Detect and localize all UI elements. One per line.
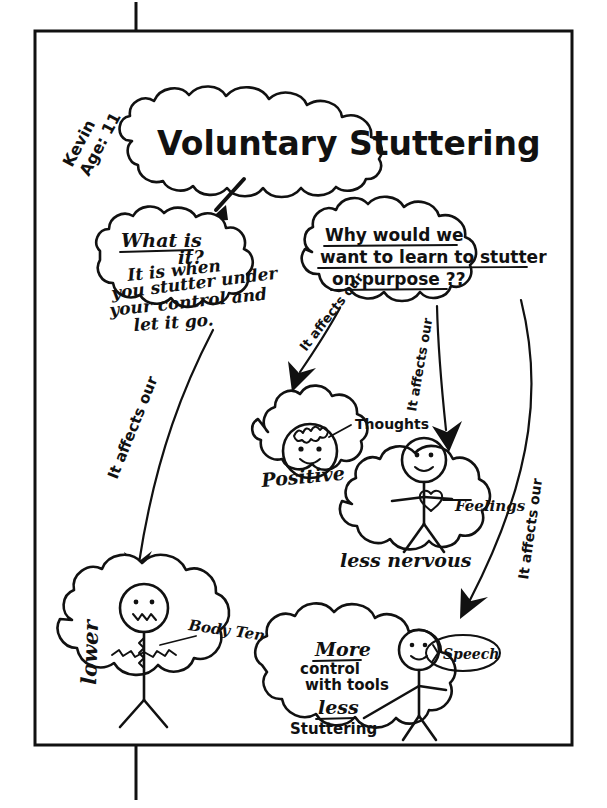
central-node[interactable]: Voluntary Stuttering (120, 86, 541, 197)
feelings-callout-label: Feelings (454, 497, 526, 515)
outcome-more-control-speech[interactable]: More control with tools less Stuttering … (255, 603, 500, 740)
less-caption: less (318, 696, 359, 718)
branch-speech: It affects our (460, 300, 545, 619)
question-node[interactable]: Why would we want to learn to stutter on… (302, 197, 547, 301)
branch-feelings-label: It affects our (404, 316, 435, 412)
definition-line5: let it go. (133, 309, 214, 335)
question-line2: want to learn to stutter (320, 247, 547, 267)
stuttering-caption: Stuttering (290, 720, 377, 738)
speech-callout-label: Speech (443, 646, 499, 662)
mindmap-canvas: Kevin Age: 11 Voluntary Stuttering What … (0, 0, 607, 808)
thoughts-callout-label: Thoughts (355, 416, 429, 432)
question-line1: Why would we (325, 225, 464, 245)
author-note: Kevin Age: 11 (59, 100, 125, 179)
with-tools-caption: with tools (305, 676, 389, 694)
more-caption: More (314, 638, 371, 660)
branch-body-label: It affects our (104, 373, 162, 481)
branch-speech-label: It affects our (515, 477, 545, 580)
lower-caption: lower (76, 618, 103, 685)
worksheet-page: Kevin Age: 11 Voluntary Stuttering What … (0, 0, 607, 808)
less-nervous-caption: less nervous (340, 549, 472, 571)
branch-body: It affects our (104, 330, 213, 582)
outcome-less-nervous-feelings[interactable]: Feelings less nervous (340, 438, 526, 571)
definition-node[interactable]: What is it? It is when you stutter under… (96, 207, 279, 335)
positive-caption: Positive (259, 462, 345, 491)
central-node-label: Voluntary Stuttering (157, 124, 541, 163)
